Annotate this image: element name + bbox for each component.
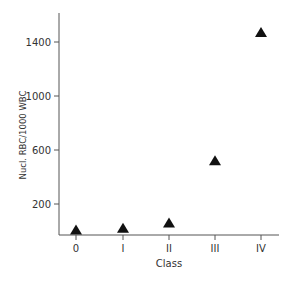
y-tick-label: 600 bbox=[32, 145, 51, 156]
y-tick-label: 1000 bbox=[26, 91, 51, 102]
y-ticks: 20060010001400 bbox=[26, 37, 59, 210]
x-tick-label: IV bbox=[256, 243, 266, 254]
x-tick-label: I bbox=[122, 243, 125, 254]
y-tick-label: 1400 bbox=[26, 37, 51, 48]
scatter-chart: 20060010001400 0IIIIIIIV Class Nucl. RBC… bbox=[0, 0, 295, 281]
x-axis-title: Class bbox=[156, 258, 182, 269]
triangle-marker bbox=[255, 27, 267, 37]
triangle-marker bbox=[117, 223, 129, 233]
triangle-marker bbox=[70, 225, 82, 235]
x-tick-label: III bbox=[211, 243, 220, 254]
triangle-marker bbox=[209, 155, 221, 165]
x-tick-label: 0 bbox=[73, 243, 79, 254]
data-points bbox=[70, 27, 267, 234]
x-tick-label: II bbox=[166, 243, 172, 254]
x-ticks: 0IIIIIIIV bbox=[73, 235, 266, 254]
triangle-marker bbox=[163, 217, 175, 227]
y-tick-label: 200 bbox=[32, 199, 51, 210]
y-axis-title: Nucl. RBC/1000 WBC bbox=[18, 90, 28, 179]
